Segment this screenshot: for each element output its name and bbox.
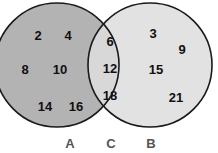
venn-diagram: 24810141661218391521 A C B xyxy=(0,0,218,153)
set-b-number: 3 xyxy=(149,26,156,41)
intersection-number: 12 xyxy=(103,61,117,76)
set-a-number: 4 xyxy=(64,28,72,43)
label-set-b: B xyxy=(146,136,155,151)
intersection-number: 18 xyxy=(103,88,117,103)
set-b-number: 21 xyxy=(169,90,183,105)
set-a-number: 10 xyxy=(53,62,67,77)
set-a-number: 2 xyxy=(34,28,41,43)
set-a-number: 16 xyxy=(69,99,83,114)
set-b-number: 9 xyxy=(178,42,185,57)
set-a-number: 8 xyxy=(21,62,28,77)
set-a-number: 14 xyxy=(38,99,53,114)
intersection-number: 6 xyxy=(106,34,113,49)
label-set-a: A xyxy=(65,136,75,151)
set-b-number: 15 xyxy=(149,62,163,77)
label-intersection-c: C xyxy=(106,136,116,151)
